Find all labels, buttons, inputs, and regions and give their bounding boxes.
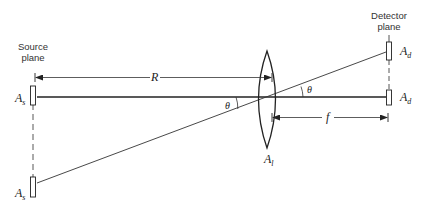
source-plane-line2: plane [8,52,58,63]
label-sub: d [407,51,411,60]
label-sub: s [22,193,25,202]
lens-aperture-label: Al [264,153,274,170]
optical-diagram [0,0,429,218]
source-plane-line1: Source [8,41,58,52]
lens [259,51,276,148]
f-label: f [326,111,329,123]
source-aperture-top [31,86,36,105]
detector-aperture-bottom-label: Ad [400,91,411,108]
theta-left-label: θ [225,100,230,112]
source-aperture-bottom-label: As [15,187,25,204]
detector-plane-line2: plane [364,21,414,32]
theta-right-label: θ [307,84,312,96]
label-sub: d [407,97,411,106]
source-aperture-top-label: As [15,92,25,109]
detector-plane-line1: Detector [364,10,414,21]
oblique-ray [37,52,386,183]
theta-arc-left [236,97,238,109]
detector-aperture-bottom [387,90,392,105]
detector-aperture-top [387,42,392,60]
detector-aperture-top-label: Ad [400,45,411,62]
R-label: R [151,71,158,83]
detector-plane-label: Detector plane [364,10,414,32]
source-plane-label: Source plane [8,41,58,63]
source-aperture-bottom [31,177,36,197]
label-sub: s [22,98,25,107]
label-sub: l [271,159,273,168]
theta-arc-right [301,87,303,98]
